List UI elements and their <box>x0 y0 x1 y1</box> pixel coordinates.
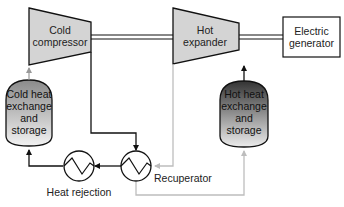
cold-storage-label-1: Cold heat <box>7 88 52 100</box>
electric-generator: Electric generator <box>283 17 340 57</box>
hot-expander: Hot expander <box>173 8 239 64</box>
hot-storage-label-2: exchange <box>221 100 267 112</box>
cold-storage-label-2: exchange <box>6 100 52 112</box>
cold-storage-label-4: storage <box>11 124 46 136</box>
cold-compressor-label-1: Cold <box>49 24 71 36</box>
shaft-expander-generator <box>239 35 283 39</box>
recuperator-exchanger: Recuperator <box>121 151 212 184</box>
cold-compressor-label-2: compressor <box>33 36 88 48</box>
hot-expander-label-2: expander <box>183 36 227 48</box>
hot-storage-label-4: storage <box>226 124 261 136</box>
heat-rejection-exchanger: Heat rejection <box>47 151 112 198</box>
flow-compressor-to-recuperator <box>91 52 136 150</box>
flow-expander-to-recuperator <box>155 64 173 166</box>
generator-label-1: Electric <box>294 25 328 37</box>
hot-storage-label-3: and <box>235 112 253 124</box>
pumped-thermal-storage-diagram: Cold compressor Hot expander Electric ge… <box>0 0 344 207</box>
recuperator-label: Recuperator <box>154 172 212 184</box>
hot-expander-label-1: Hot <box>197 24 213 36</box>
shaft-compressor-expander <box>91 35 173 39</box>
hot-storage-label-1: Hot heat <box>224 88 264 100</box>
cold-storage-label-3: and <box>20 112 38 124</box>
generator-label-2: generator <box>289 37 334 49</box>
cold-compressor: Cold compressor <box>29 8 91 65</box>
cold-heat-exchange-storage: Cold heat exchange and storage <box>6 80 52 146</box>
heat-rejection-label: Heat rejection <box>47 186 112 198</box>
hot-heat-exchange-storage: Hot heat exchange and storage <box>220 81 268 147</box>
flow-heat-rejection-to-cold-storage <box>29 150 63 166</box>
